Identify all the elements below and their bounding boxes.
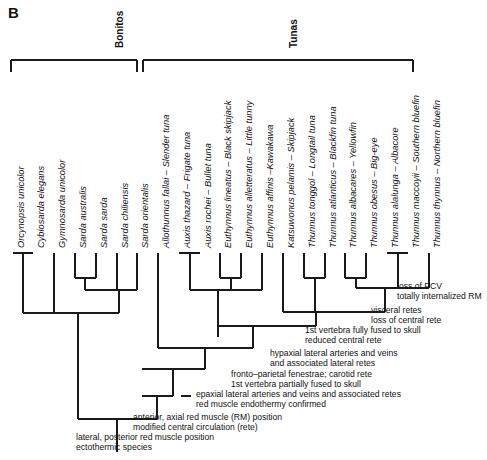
tree-lines — [0, 0, 487, 460]
phylogenetic-tree-figure: B Bonitos Tunas Orcynopsis unicolorCybio… — [0, 0, 487, 460]
tree-branches — [13, 253, 429, 452]
group-brackets — [11, 60, 413, 72]
annotation-ticks — [118, 288, 392, 419]
